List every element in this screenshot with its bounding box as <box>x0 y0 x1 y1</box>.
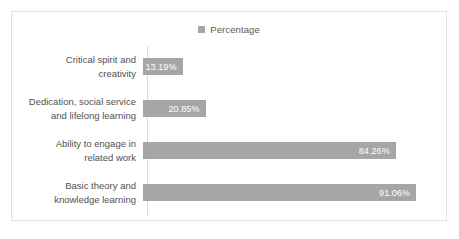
bar-value-label: 84.26% <box>359 146 390 156</box>
bar-critical-spirit[interactable]: 13.19% <box>143 58 183 75</box>
category-label-line2: creativity <box>12 67 136 81</box>
bar-track: 20.85% <box>142 88 448 129</box>
category-label-line1: Ability to engage in <box>12 137 136 151</box>
category-label-line2: knowledge learning <box>12 193 136 207</box>
category-label-line2: related work <box>12 151 136 165</box>
category-label-line1: Critical spirit and <box>12 53 136 67</box>
legend-swatch-icon <box>198 26 205 33</box>
chart-container: Percentage Critical spirit and creativit… <box>11 11 447 221</box>
bar-value-label: 20.85% <box>168 104 199 114</box>
bar-row: Critical spirit and creativity 13.19% <box>12 46 448 87</box>
bar-ability-engage[interactable]: 84.26% <box>143 142 396 159</box>
bar-row: Dedication, social service and lifelong … <box>12 88 448 129</box>
bar-basic-theory[interactable]: 91.06% <box>143 184 416 201</box>
chart-legend: Percentage <box>12 24 446 35</box>
bar-row: Ability to engage in related work 84.26% <box>12 130 448 171</box>
category-label-ability-engage: Ability to engage in related work <box>12 137 142 164</box>
bar-track: 91.06% <box>142 172 448 213</box>
category-label-line1: Dedication, social service <box>12 95 136 109</box>
category-label-line1: Basic theory and <box>12 179 136 193</box>
bar-row: Basic theory and knowledge learning 91.0… <box>12 172 448 213</box>
bar-value-label: 91.06% <box>379 188 410 198</box>
legend-label: Percentage <box>210 24 260 35</box>
legend-item-percentage[interactable]: Percentage <box>198 24 260 35</box>
bar-dedication[interactable]: 20.85% <box>143 100 206 117</box>
category-label-line2: and lifelong learning <box>12 109 136 123</box>
bar-track: 13.19% <box>142 46 448 87</box>
bar-track: 84.26% <box>142 130 448 171</box>
bar-value-label: 13.19% <box>145 62 176 72</box>
category-label-basic-theory: Basic theory and knowledge learning <box>12 179 142 206</box>
plot-area: Critical spirit and creativity 13.19% De… <box>12 44 448 221</box>
category-label-dedication: Dedication, social service and lifelong … <box>12 95 142 122</box>
category-label-critical-spirit: Critical spirit and creativity <box>12 53 142 80</box>
